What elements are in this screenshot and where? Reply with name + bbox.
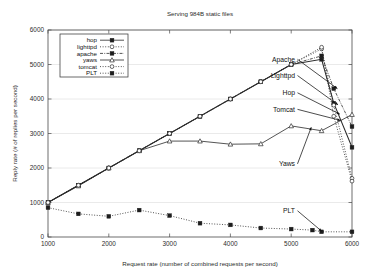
legend-marker-PLT: [110, 71, 114, 75]
series-marker-tomcat: [332, 114, 336, 118]
series-marker-PLT: [168, 214, 172, 218]
series-line-PLT: [48, 208, 352, 232]
series-marker-PLT: [198, 221, 202, 225]
x-tick-label: 3000: [162, 240, 177, 247]
x-tick-label: 1000: [41, 240, 56, 247]
series-marker-tomcat: [107, 166, 111, 170]
y-tick-label: 5000: [30, 61, 45, 68]
y-tick-label: 2000: [30, 164, 45, 171]
chart-figure: Serving 984B static files010002000300040…: [0, 0, 385, 279]
chart-canvas: Serving 984B static files010002000300040…: [0, 0, 385, 279]
series-line-hop: [48, 59, 352, 202]
annotation-leader-apache: [298, 59, 338, 88]
x-tick-label: 6000: [345, 240, 360, 247]
series-marker-PLT: [77, 212, 81, 216]
chart-title: Serving 984B static files: [167, 10, 233, 17]
series-marker-tomcat: [289, 63, 293, 67]
annotation-hop: Hop: [283, 89, 296, 97]
x-tick-label: 2000: [102, 240, 117, 247]
legend-marker-apache: [110, 52, 114, 56]
series-marker-tomcat: [137, 149, 141, 153]
series-marker-PLT: [350, 230, 354, 234]
series-marker-hop: [350, 145, 354, 149]
x-axis-label: Request rate (number of combined request…: [122, 260, 277, 267]
series-marker-tomcat: [259, 80, 263, 84]
series-marker-PLT: [259, 226, 263, 230]
series-marker-yaws: [289, 124, 294, 128]
y-tick-label: 1000: [30, 199, 45, 206]
annotation-lighttpd: Lighttpd: [271, 72, 295, 80]
series-marker-tomcat: [320, 45, 324, 49]
series-marker-PLT: [289, 227, 293, 231]
x-tick-label: 4000: [223, 240, 238, 247]
series-marker-PLT: [46, 206, 50, 210]
annotation-apache: Apache: [272, 56, 295, 64]
series-marker-tomcat: [229, 97, 233, 101]
series-marker-tomcat: [46, 201, 50, 205]
annotation-leader-yaws: [298, 127, 312, 164]
annotation-plt: PLT: [283, 207, 295, 214]
y-axis-label: Reply rate (# of replies per second): [11, 85, 18, 182]
annotation-leader-plt: [298, 211, 322, 231]
y-tick-label: 6000: [30, 26, 45, 33]
series-marker-PLT: [137, 208, 141, 212]
series-marker-apache: [350, 125, 354, 129]
series-marker-PLT: [311, 228, 315, 232]
series-marker-tomcat: [198, 114, 202, 118]
y-tick-label: 4000: [30, 95, 45, 102]
series-line-apache: [48, 56, 352, 203]
legend-marker-lighttpd: [110, 45, 114, 49]
series-marker-tomcat: [168, 132, 172, 136]
legend-label-PLT: PLT: [86, 69, 97, 76]
legend-marker-hop: [110, 38, 114, 42]
series-marker-yaws: [350, 112, 355, 116]
series-marker-PLT: [229, 223, 233, 227]
legend-marker-tomcat: [110, 65, 114, 69]
series-marker-PLT: [107, 214, 111, 218]
annotation-yaws: Yaws: [279, 160, 296, 167]
series-line-yaws: [48, 115, 352, 203]
y-tick-label: 3000: [30, 130, 45, 137]
annotation-tomcat: Tomcat: [273, 106, 295, 113]
series-marker-tomcat: [350, 179, 354, 183]
series-marker-tomcat: [77, 183, 81, 187]
x-tick-label: 5000: [284, 240, 299, 247]
